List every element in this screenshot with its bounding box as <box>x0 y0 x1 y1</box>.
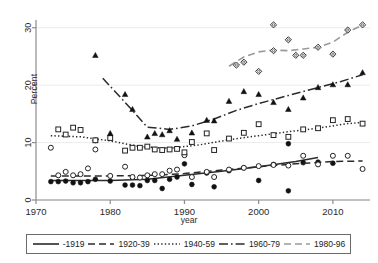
data-point-filled-triangle <box>286 106 292 111</box>
data-point-open-circle <box>241 165 246 170</box>
data-point-open-square <box>108 136 113 141</box>
data-point-open-square <box>301 127 306 132</box>
data-point-filled-triangle <box>189 130 195 135</box>
data-point-filled-circle <box>256 178 261 183</box>
data-point-filled-triangle <box>152 130 158 135</box>
data-point-open-circle <box>330 153 335 158</box>
data-point-open-square <box>182 150 187 155</box>
data-point-filled-circle <box>48 179 53 184</box>
data-point-open-circle <box>175 167 180 172</box>
data-point-open-circle <box>93 147 98 152</box>
data-point-filled-triangle <box>159 132 165 137</box>
data-point-filled-circle <box>63 179 68 184</box>
data-point-filled-circle <box>182 161 187 166</box>
data-point-open-square <box>138 145 143 150</box>
chart-legend: -19191920-391940-591960-791980-96 <box>26 234 351 254</box>
data-point-open-square <box>56 127 61 132</box>
data-point-filled-circle <box>108 179 113 184</box>
data-point-open-circle <box>56 173 61 178</box>
data-point-filled-triangle <box>345 82 351 87</box>
data-point-open-circle <box>301 153 306 158</box>
data-point-open-diamond <box>300 52 306 58</box>
data-point-open-circle <box>345 153 350 158</box>
data-point-open-circle <box>204 169 209 174</box>
legend-key-dashed <box>87 239 115 249</box>
data-point-open-square <box>256 122 261 127</box>
legend-label: 1960-79 <box>249 239 280 249</box>
data-point-open-square <box>175 146 180 151</box>
data-point-open-circle <box>123 164 128 169</box>
data-point-open-square <box>78 128 83 133</box>
data-point-open-square <box>330 118 335 123</box>
data-point-filled-circle <box>175 175 180 180</box>
data-point-open-circle <box>167 168 172 173</box>
data-point-open-square <box>71 125 76 130</box>
data-point-open-circle <box>160 172 165 177</box>
data-point-filled-circle <box>212 184 217 189</box>
data-point-open-circle <box>130 175 135 180</box>
legend-item--1919[interactable]: -1919 <box>32 239 85 249</box>
data-point-open-square <box>160 148 165 153</box>
trend-line <box>103 75 363 130</box>
legend-label: 1980-96 <box>314 239 345 249</box>
data-point-open-circle <box>286 163 291 168</box>
data-point-open-square <box>241 130 246 135</box>
series-1980-96 <box>229 22 366 75</box>
legend-label: 1940-59 <box>184 239 215 249</box>
legend-item-1980-96[interactable]: 1980-96 <box>283 239 345 249</box>
data-point-open-circle <box>152 172 157 177</box>
data-point-filled-circle <box>138 183 143 188</box>
legend-key-dotted <box>153 239 181 249</box>
data-point-open-square <box>227 136 232 141</box>
data-point-filled-triangle <box>300 95 306 100</box>
data-point-open-circle <box>108 173 113 178</box>
data-point-filled-triangle <box>122 91 128 96</box>
data-point-open-square <box>345 117 350 122</box>
y-tick-label: 10 <box>23 138 33 148</box>
data-point-filled-circle <box>71 180 76 185</box>
legend-key-long-dash-light <box>283 239 311 249</box>
data-point-filled-triangle <box>360 70 366 75</box>
data-point-open-diamond <box>270 48 276 54</box>
data-point-open-square <box>271 133 276 138</box>
data-point-filled-triangle <box>241 89 247 94</box>
data-point-open-square <box>123 148 128 153</box>
y-tick-label: 0 <box>23 197 33 202</box>
x-axis-label: year <box>0 215 378 225</box>
data-point-filled-circle <box>286 141 291 146</box>
data-point-filled-circle <box>145 178 150 183</box>
data-point-filled-triangle <box>204 117 210 122</box>
data-point-open-diamond <box>293 52 299 58</box>
data-point-filled-circle <box>286 188 291 193</box>
data-point-open-diamond <box>330 51 336 57</box>
data-point-open-circle <box>85 166 90 171</box>
data-point-open-diamond <box>359 22 365 28</box>
data-point-open-square <box>204 131 209 136</box>
series--1919 <box>48 141 335 193</box>
data-point-open-circle <box>137 175 142 180</box>
trend-line <box>229 25 363 66</box>
data-point-filled-triangle <box>174 136 180 141</box>
data-point-open-diamond <box>315 44 321 50</box>
data-point-open-square <box>63 132 68 137</box>
data-point-filled-circle <box>86 179 91 184</box>
data-point-open-circle <box>48 145 53 150</box>
data-point-open-square <box>145 144 150 149</box>
data-point-open-circle <box>212 175 217 180</box>
data-point-open-circle <box>145 173 150 178</box>
data-point-open-diamond <box>241 59 247 65</box>
legend-label: 1920-39 <box>118 239 149 249</box>
data-point-open-circle <box>316 162 321 167</box>
legend-key-dash-dot <box>218 239 246 249</box>
data-point-open-square <box>316 126 321 131</box>
data-point-open-circle <box>78 172 83 177</box>
series-1920-39 <box>48 138 365 180</box>
data-point-filled-triangle <box>107 130 113 135</box>
data-point-filled-circle <box>123 183 128 188</box>
data-point-open-circle <box>189 175 194 180</box>
legend-item-1960-79[interactable]: 1960-79 <box>218 239 280 249</box>
legend-item-1940-59[interactable]: 1940-59 <box>153 239 215 249</box>
data-point-filled-triangle <box>256 91 262 96</box>
data-point-open-circle <box>360 166 365 171</box>
legend-item-1920-39[interactable]: 1920-39 <box>87 239 149 249</box>
